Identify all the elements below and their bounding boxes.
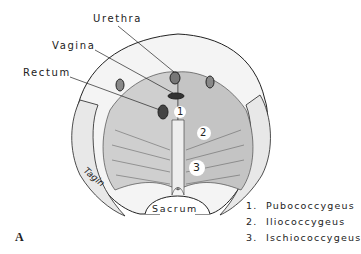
- label-urethra: Urethra: [93, 13, 142, 24]
- muscle-number-2: 2: [200, 127, 206, 138]
- muscle-number-1: 1: [177, 106, 183, 117]
- legend-item: 2. Iliococcygeus: [246, 214, 361, 230]
- legend-item: 3. Ischiococcygeus: [246, 230, 361, 246]
- panel-label: A: [15, 230, 24, 245]
- legend-item: 1. Pubococcygeus: [246, 198, 361, 214]
- label-vagina: Vagina: [52, 40, 95, 51]
- muscle-number-3: 3: [193, 161, 200, 174]
- label-sacrum: Sacrum: [152, 203, 198, 214]
- label-rectum: Rectum: [23, 67, 71, 78]
- legend: 1. Pubococcygeus 2. Iliococcygeus 3. Isc…: [246, 198, 361, 246]
